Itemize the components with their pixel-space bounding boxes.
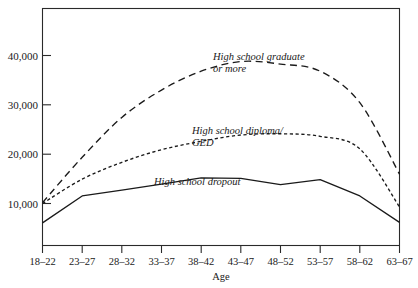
- chart-figure: 40,000 30,000 20,000 10,000 18–22 23–27 …: [0, 0, 418, 288]
- x-tick-label-4: 38–42: [188, 256, 214, 267]
- y-tick-label-40000: 40,000: [8, 50, 39, 62]
- y-tick-label-30000: 30,000: [8, 99, 39, 111]
- x-tick-label-9: 63–67: [386, 256, 412, 267]
- x-tick-label-5: 43–47: [228, 256, 254, 267]
- annotation-graduate-line2: or more: [213, 63, 246, 74]
- x-tick-label-7: 53–57: [307, 256, 333, 267]
- x-tick-label-1: 23–27: [69, 256, 95, 267]
- annotation-diploma-line2: GED: [192, 137, 214, 148]
- y-tick-label-20000: 20,000: [8, 148, 39, 160]
- line-chart: 40,000 30,000 20,000 10,000 18–22 23–27 …: [0, 0, 418, 288]
- x-axis-title: Age: [212, 271, 230, 282]
- x-tick-label-3: 33–37: [148, 256, 174, 267]
- annotation-dropout: High school dropout: [153, 176, 242, 187]
- x-tick-label-2: 28–32: [109, 256, 135, 267]
- x-tick-label-0: 18–22: [29, 256, 55, 267]
- annotation-diploma-line1: High school diploma/: [191, 125, 284, 136]
- annotation-graduate-line1: High school graduate: [212, 51, 305, 62]
- x-tick-label-6: 48–52: [267, 256, 293, 267]
- annotation-dropout-line1: High school dropout: [153, 176, 242, 187]
- x-tick-label-8: 58–62: [347, 256, 373, 267]
- y-tick-label-10000: 10,000: [8, 198, 39, 210]
